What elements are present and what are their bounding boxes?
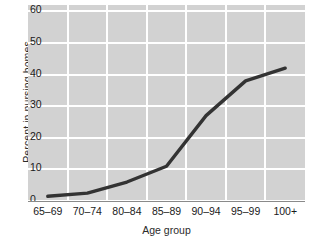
x-tick-labels: 65–6970–7480–8485–8990–9495–99100+ [28,205,305,219]
plot-area: 0102030405060 [28,5,305,201]
x-axis-line [28,201,305,202]
data-line [28,5,305,201]
chart-figure: Percent in nursing homes 0102030405060 6… [0,0,312,246]
x-tick-label: 100+ [262,205,308,217]
x-axis-title: Age group [28,224,305,236]
